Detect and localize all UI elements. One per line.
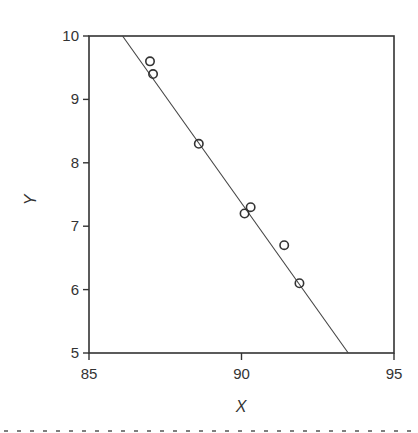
y-tick-label-7: 7	[71, 217, 79, 234]
x-tick-label-90: 90	[233, 365, 250, 382]
scatter-chart: 5678910 859095 X Y	[0, 0, 418, 433]
regression-line	[123, 36, 349, 353]
data-point	[295, 279, 303, 287]
x-axis-label: X	[235, 398, 248, 415]
data-point	[246, 203, 254, 211]
y-axis-label: Y	[22, 193, 39, 205]
y-tick-label-8: 8	[71, 154, 79, 171]
y-tick-label-6: 6	[71, 281, 79, 298]
data-points	[146, 57, 304, 287]
plot-border	[89, 36, 394, 353]
fit-line-group	[123, 36, 349, 353]
x-tick-label-85: 85	[81, 365, 98, 382]
y-tick-label-9: 9	[71, 90, 79, 107]
x-axis-ticks: 859095	[81, 353, 403, 382]
axes-frame	[89, 36, 394, 353]
y-axis-ticks: 5678910	[62, 27, 89, 361]
y-tick-label-10: 10	[62, 27, 79, 44]
x-tick-label-95: 95	[386, 365, 403, 382]
data-point	[280, 241, 288, 249]
y-tick-label-5: 5	[71, 344, 79, 361]
data-point	[146, 57, 154, 65]
